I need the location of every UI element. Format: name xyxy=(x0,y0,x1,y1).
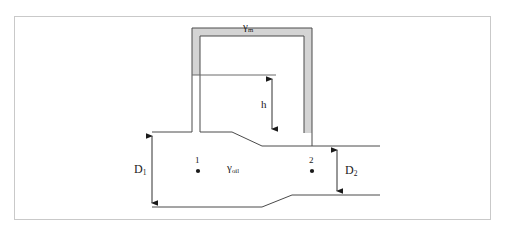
point-2-marker xyxy=(310,169,314,173)
gamma-subscript: oil xyxy=(232,167,239,174)
manometer-tube-outline xyxy=(192,28,312,146)
d1-symbol: D xyxy=(134,162,143,176)
manometer-fluid-label: γm xyxy=(243,20,253,33)
point-2-label: 2 xyxy=(309,155,314,165)
d2-dimension-label: D2 xyxy=(345,163,357,178)
pipe-fluid-label: γoil xyxy=(227,161,239,174)
manometer-diagram xyxy=(0,0,505,233)
point-1-label: 1 xyxy=(195,155,200,165)
d1-dimension-label: D1 xyxy=(134,162,146,177)
point-1-marker xyxy=(196,169,200,173)
h-dimension-label: h xyxy=(261,98,267,110)
d2-subscript: 2 xyxy=(354,169,358,178)
gamma-subscript: m xyxy=(248,26,253,33)
manometer-fluid-region xyxy=(192,28,312,133)
d1-subscript: 1 xyxy=(143,168,147,177)
d2-symbol: D xyxy=(345,163,354,177)
